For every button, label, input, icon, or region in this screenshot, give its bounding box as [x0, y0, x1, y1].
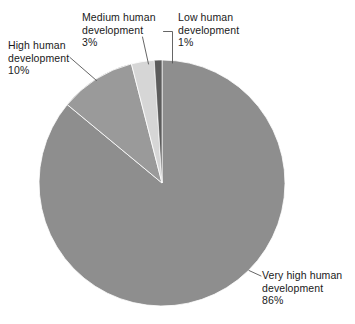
pie-label-low-line-1: Low human: [178, 11, 239, 24]
pie-label-high-line-1: High human: [8, 39, 69, 52]
leader-line-high-human-development: [70, 58, 97, 81]
pie-label-high-human-development: High human development 10%: [8, 39, 69, 77]
pie-label-medium-human-development: Medium human development 3%: [82, 11, 156, 49]
pie-label-medium-line-2: development: [82, 24, 156, 37]
pie-label-high-line-2: development: [8, 52, 69, 65]
leader-line-very-high-human-development: [249, 271, 261, 277]
pie-label-low-value: 1%: [178, 36, 239, 49]
leader-line-low-human-development: [164, 32, 173, 64]
pie-label-high-value: 10%: [8, 64, 69, 77]
pie-slices: [39, 60, 285, 306]
pie-label-very-high-human-development: Very high human development 86%: [262, 269, 342, 307]
pie-label-low-human-development: Low human development 1%: [178, 11, 239, 49]
pie-label-low-line-2: development: [178, 24, 239, 37]
pie-label-very-high-value: 86%: [262, 294, 342, 307]
pie-chart-figure: High human development 10% Medium human …: [0, 0, 355, 324]
pie-label-medium-line-1: Medium human: [82, 11, 156, 24]
pie-label-very-high-line-2: development: [262, 282, 342, 295]
pie-label-medium-value: 3%: [82, 36, 156, 49]
pie-label-very-high-line-1: Very high human: [262, 269, 342, 282]
